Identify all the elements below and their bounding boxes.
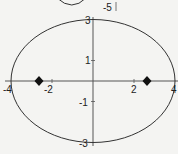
y-tick-label: -1	[79, 97, 88, 108]
y-tick-label: 1	[85, 55, 91, 66]
focus-marker-left	[35, 76, 44, 86]
y-tick-label: 3	[85, 15, 91, 26]
x-tick-label: -4	[3, 84, 12, 95]
y-tick-label: -3	[79, 138, 88, 149]
x-tick-label: -2	[44, 84, 53, 95]
x-tick-label: 2	[131, 84, 137, 95]
ellipse-plot: -5 -4 -2 2 4 3 1 -1 -3	[0, 0, 178, 154]
previous-figure-label: -5	[103, 2, 112, 13]
x-tick-label: 4	[171, 84, 177, 95]
focus-marker-right	[143, 76, 152, 86]
previous-figure-arc	[57, 0, 86, 5]
